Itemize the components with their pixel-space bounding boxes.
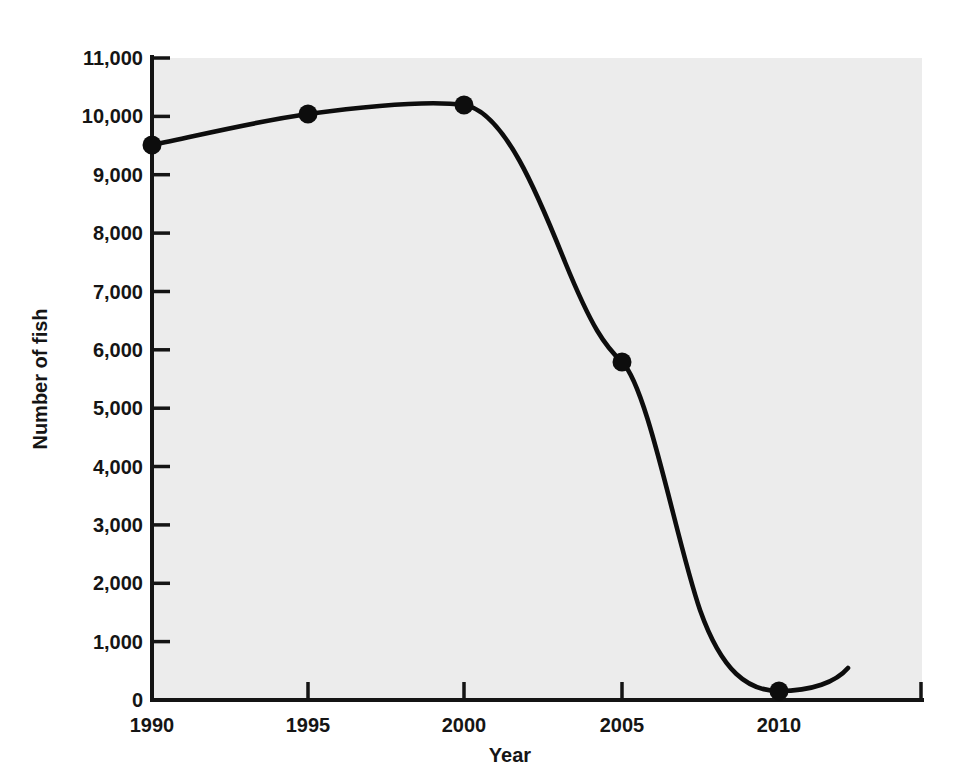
data-point-2005 [613, 353, 632, 372]
y-tick-label-0: 0 [132, 689, 143, 711]
x-tick-label-2005: 2005 [600, 714, 645, 736]
x-tick-label-2010: 2010 [757, 714, 802, 736]
y-tick-label-6000: 6,000 [93, 339, 143, 361]
data-point-1995 [299, 105, 318, 124]
y-tick-label-2000: 2,000 [93, 572, 143, 594]
x-tick-label-1990: 1990 [130, 714, 175, 736]
y-tick-label-5000: 5,000 [93, 397, 143, 419]
y-tick-label-1000: 1,000 [93, 631, 143, 653]
plot-area-background [152, 58, 922, 700]
y-axis-title: Number of fish [29, 308, 51, 449]
y-tick-label-3000: 3,000 [93, 514, 143, 536]
data-point-2010 [770, 682, 789, 701]
data-point-1990 [143, 136, 162, 155]
y-tick-label-9000: 9,000 [93, 164, 143, 186]
x-axis-title: Year [489, 744, 531, 766]
data-point-2000 [455, 96, 474, 115]
y-tick-label-10000: 10,000 [82, 105, 143, 127]
chart-page: 11,000 10,000 9,000 8,000 7,000 6,000 5,… [0, 0, 963, 784]
line-chart: 11,000 10,000 9,000 8,000 7,000 6,000 5,… [0, 0, 963, 784]
x-tick-label-1995: 1995 [286, 714, 331, 736]
y-tick-label-7000: 7,000 [93, 281, 143, 303]
x-tick-label-2000: 2000 [442, 714, 487, 736]
y-tick-label-8000: 8,000 [93, 222, 143, 244]
y-tick-label-11000: 11,000 [83, 47, 143, 69]
y-tick-label-4000: 4,000 [93, 456, 143, 478]
